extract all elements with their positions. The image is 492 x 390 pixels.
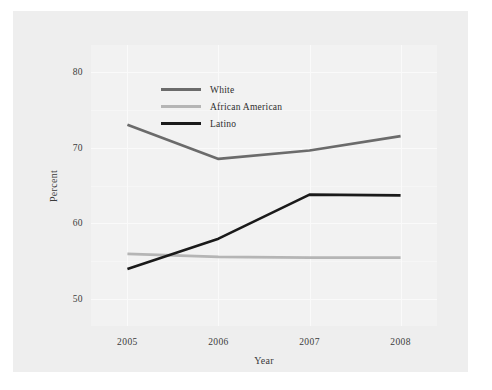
y-tick-label: 60 — [73, 218, 83, 228]
y-tick-label: 50 — [73, 294, 83, 304]
legend-item-label: Latino — [210, 119, 236, 129]
y-axis-label: Percent — [48, 170, 59, 202]
legend-item: White — [161, 81, 282, 98]
legend-swatch-icon — [161, 105, 201, 108]
x-tick-label: 2008 — [390, 337, 411, 347]
legend-item: Latino — [161, 115, 282, 132]
figure-canvas: 50607080 2005200620072008 Percent Year W… — [13, 11, 468, 372]
legend-item-label: White — [210, 85, 234, 95]
y-tick-label: 70 — [73, 143, 83, 153]
legend-item-label: African American — [210, 102, 282, 112]
legend-swatch-icon — [161, 122, 201, 125]
x-axis-label: Year — [254, 355, 274, 366]
legend-item: African American — [161, 98, 282, 115]
x-tick-label: 2006 — [208, 337, 229, 347]
x-tick-label: 2007 — [299, 337, 320, 347]
y-tick-label: 80 — [73, 67, 83, 77]
legend-swatch-icon — [161, 88, 201, 91]
chart-legend: WhiteAfrican AmericanLatino — [161, 81, 282, 132]
x-tick-label: 2005 — [117, 337, 138, 347]
